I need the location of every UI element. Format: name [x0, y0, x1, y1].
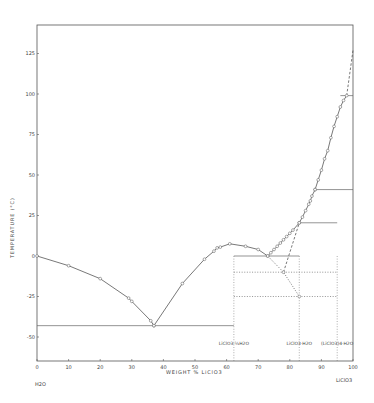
data-point [276, 245, 279, 248]
x-axis-title: WEIGHT % LiClO3 [166, 369, 222, 375]
liquidus-curves [37, 50, 353, 325]
y-axis-title: TEMPERATURE (°C) [9, 197, 15, 259]
data-point [153, 324, 156, 327]
x-tick-label: 90 [318, 364, 324, 370]
y-tick-label: -25 [27, 293, 35, 299]
labels: TEMPERATURE (°C) WEIGHT % LiClO3 H2O LiC… [9, 197, 352, 387]
data-point [203, 258, 206, 261]
x-tick-label: 0 [35, 364, 38, 370]
y-tick-label: 0 [32, 253, 35, 259]
data-point [323, 157, 326, 160]
data-point [149, 319, 152, 322]
data-point [244, 245, 247, 248]
compound-label: LiClO3·⅓H2O [219, 341, 250, 346]
x-tick-label: 80 [287, 364, 293, 370]
data-point [99, 277, 102, 280]
axis-ticks: 01020304050607080901001251007550250-25-5… [25, 50, 357, 370]
data-point [333, 125, 336, 128]
data-point [311, 195, 314, 198]
x-tick-label: 60 [223, 364, 229, 370]
y-tick-label: 100 [25, 91, 35, 97]
data-point [67, 264, 70, 267]
x-tick-label: 30 [129, 364, 135, 370]
curve [37, 256, 154, 326]
data-point [257, 248, 260, 251]
plot-frame [37, 25, 353, 361]
data-point [326, 149, 329, 152]
data-point [309, 200, 312, 203]
x-tick-label: 20 [97, 364, 103, 370]
data-point [285, 235, 288, 238]
x-end-label-left: H2O [35, 381, 46, 387]
data-point [292, 229, 295, 232]
data-point [342, 99, 345, 102]
x-end-label-right: LiClO3 [336, 377, 352, 383]
data-point [269, 251, 272, 254]
data-point [282, 271, 285, 274]
curve [268, 256, 300, 297]
data-point [307, 203, 310, 206]
data-point [336, 115, 339, 118]
data-point [320, 169, 323, 172]
data-point [216, 247, 219, 250]
data-point [317, 178, 320, 181]
data-point [314, 188, 317, 191]
data-point [282, 238, 285, 241]
x-tick-label: 100 [348, 364, 358, 370]
x-tick-label: 10 [65, 364, 71, 370]
data-point [301, 216, 304, 219]
x-tick-label: 70 [255, 364, 261, 370]
data-point [279, 242, 282, 245]
data-point [213, 250, 216, 253]
compound-label: LiClO3·H2O [286, 341, 312, 346]
phase-diagram: 01020304050607080901001251007550250-25-5… [0, 0, 374, 403]
plot-border [37, 25, 353, 361]
data-point [298, 295, 301, 298]
data-point [228, 242, 231, 245]
data-point [298, 221, 301, 224]
curve [347, 50, 353, 95]
curve [315, 96, 347, 190]
data-point [127, 297, 130, 300]
y-tick-label: -50 [27, 334, 35, 340]
data-point [273, 248, 276, 251]
data-point [36, 255, 39, 258]
y-tick-label: 50 [29, 172, 35, 178]
data-point [288, 232, 291, 235]
data-point [219, 246, 222, 249]
y-tick-label: 125 [25, 50, 35, 56]
data-points [36, 94, 348, 327]
data-point [266, 255, 269, 258]
compound-annotations: LiClO3·⅓H2OLiClO3·H2O(LiClO3)4·H2O [219, 341, 354, 346]
data-point [345, 94, 348, 97]
data-point [329, 136, 332, 139]
data-point [339, 106, 342, 109]
compound-label: (LiClO3)4·H2O [321, 341, 354, 346]
data-point [181, 282, 184, 285]
y-tick-label: 25 [29, 212, 35, 218]
data-point [130, 300, 133, 303]
y-tick-label: 75 [29, 131, 35, 137]
data-point [304, 209, 307, 212]
